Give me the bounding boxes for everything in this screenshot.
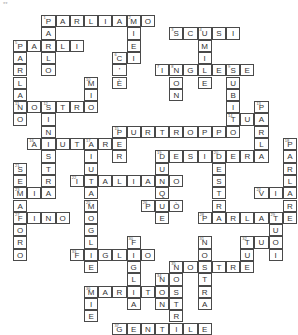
crossword-cell[interactable]: R (169, 126, 183, 138)
crossword-cell[interactable]: I (70, 40, 84, 52)
crossword-cell[interactable]: T14 (226, 113, 240, 125)
crossword-cell[interactable]: A (41, 27, 55, 39)
crossword-cell[interactable]: F33 (70, 249, 84, 261)
crossword-cell[interactable]: I (127, 249, 141, 261)
crossword-cell[interactable]: T (141, 286, 155, 298)
crossword-cell[interactable]: T (70, 138, 84, 150)
crossword-cell[interactable]: N (155, 175, 169, 187)
crossword-cell[interactable]: E (226, 150, 240, 162)
crossword-cell[interactable]: O (56, 212, 70, 224)
crossword-cell[interactable]: E (84, 310, 98, 322)
crossword-cell[interactable]: N (169, 89, 183, 101)
crossword-cell[interactable]: I (269, 187, 283, 199)
crossword-cell[interactable]: P15 (112, 126, 126, 138)
crossword-cell[interactable]: Ò (169, 200, 183, 212)
crossword-cell[interactable]: I (84, 249, 98, 261)
crossword-cell[interactable]: A (98, 286, 112, 298)
crossword-cell[interactable]: T (155, 323, 169, 335)
crossword-cell[interactable]: L (183, 323, 197, 335)
crossword-cell[interactable]: O (183, 261, 197, 273)
crossword-cell[interactable]: U (127, 126, 141, 138)
crossword-cell[interactable]: M25 (84, 200, 98, 212)
crossword-cell[interactable]: A (98, 175, 112, 187)
crossword-cell[interactable]: A (56, 15, 70, 27)
crossword-cell[interactable]: I (84, 89, 98, 101)
crossword-cell[interactable]: O (198, 249, 212, 261)
crossword-cell[interactable]: U (56, 138, 70, 150)
crossword-cell[interactable]: E (198, 77, 212, 89)
crossword-cell[interactable]: L (240, 212, 254, 224)
crossword-cell[interactable]: O (155, 286, 169, 298)
crossword-cell[interactable]: N8 (169, 64, 183, 76)
crossword-cell[interactable]: P18 (283, 138, 297, 150)
crossword-cell[interactable]: T (41, 163, 55, 175)
crossword-cell[interactable]: E (212, 163, 226, 175)
crossword-cell[interactable]: A (198, 298, 212, 310)
crossword-cell[interactable]: I7 (155, 64, 169, 76)
crossword-cell[interactable]: S21 (13, 163, 27, 175)
crossword-cell[interactable]: R (240, 150, 254, 162)
crossword-cell[interactable]: C (183, 27, 197, 39)
crossword-cell[interactable]: O (226, 126, 240, 138)
crossword-cell[interactable]: T29 (269, 212, 283, 224)
crossword-cell[interactable]: N35 (169, 261, 183, 273)
crossword-cell[interactable]: U (240, 113, 254, 125)
crossword-cell[interactable]: I (226, 101, 240, 113)
crossword-cell[interactable]: S9 (226, 64, 240, 76)
crossword-cell[interactable]: T (169, 298, 183, 310)
crossword-cell[interactable]: R (283, 200, 297, 212)
crossword-cell[interactable]: G (127, 261, 141, 273)
crossword-cell[interactable]: R (112, 286, 126, 298)
crossword-cell[interactable]: U (155, 163, 169, 175)
crossword-cell[interactable]: G (84, 224, 98, 236)
crossword-cell[interactable]: U (226, 77, 240, 89)
crossword-cell[interactable]: I (226, 27, 240, 39)
crossword-cell[interactable]: I (269, 249, 283, 261)
crossword-cell[interactable]: O (141, 15, 155, 27)
crossword-cell[interactable]: E (240, 64, 254, 76)
crossword-cell[interactable]: G37 (112, 323, 126, 335)
crossword-cell[interactable]: M23 (13, 187, 27, 199)
crossword-cell[interactable]: O (84, 101, 98, 113)
crossword-cell[interactable]: L (127, 273, 141, 285)
crossword-cell[interactable]: N31 (198, 236, 212, 248)
crossword-cell[interactable]: C6 (112, 52, 126, 64)
crossword-cell[interactable]: S (198, 261, 212, 273)
crossword-cell[interactable]: I (169, 323, 183, 335)
crossword-cell[interactable]: R (198, 286, 212, 298)
crossword-cell[interactable]: A17 (84, 138, 98, 150)
crossword-cell[interactable]: A (84, 187, 98, 199)
crossword-cell[interactable]: P1 (41, 15, 55, 27)
crossword-cell[interactable]: I (84, 298, 98, 310)
crossword-cell[interactable]: U (240, 249, 254, 261)
crossword-cell[interactable]: L (13, 77, 27, 89)
crossword-cell[interactable]: O (13, 249, 27, 261)
crossword-cell[interactable]: S (212, 27, 226, 39)
crossword-cell[interactable]: A16 (27, 138, 41, 150)
crossword-cell[interactable]: T (212, 261, 226, 273)
crossword-cell[interactable]: A (283, 187, 297, 199)
crossword-cell[interactable]: A (254, 212, 268, 224)
crossword-cell[interactable]: G (183, 64, 197, 76)
crossword-cell[interactable]: A (283, 150, 297, 162)
crossword-cell[interactable]: R (70, 15, 84, 27)
crossword-cell[interactable]: I (198, 150, 212, 162)
crossword-cell[interactable]: ' (112, 64, 126, 76)
crossword-cell[interactable]: L (112, 175, 126, 187)
crossword-cell[interactable]: O (84, 212, 98, 224)
crossword-cell[interactable]: F30 (127, 236, 141, 248)
crossword-cell[interactable]: N11 (13, 101, 27, 113)
crossword-cell[interactable]: A (13, 200, 27, 212)
crossword-cell[interactable]: N34 (155, 273, 169, 285)
crossword-cell[interactable]: I (127, 27, 141, 39)
crossword-cell[interactable]: I (27, 212, 41, 224)
crossword-cell[interactable]: P5 (13, 40, 27, 52)
crossword-cell[interactable]: O (13, 224, 27, 236)
crossword-cell[interactable]: E (212, 64, 226, 76)
crossword-cell[interactable]: R (98, 138, 112, 150)
crossword-cell[interactable]: M2 (127, 15, 141, 27)
crossword-cell[interactable]: A (112, 15, 126, 27)
crossword-cell[interactable]: V24 (254, 187, 268, 199)
crossword-cell[interactable]: L (56, 40, 70, 52)
crossword-cell[interactable]: A (141, 175, 155, 187)
